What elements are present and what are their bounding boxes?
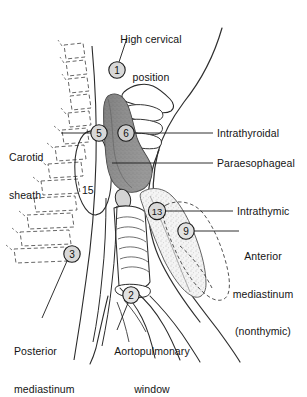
label-anterior-mediastinum-line1: Anterior [222, 250, 304, 263]
label-posterior-mediastinum-line2: mediastinum [14, 383, 92, 396]
marker-13[interactable]: 13 [148, 202, 165, 219]
marker-13-number: 13 [152, 206, 162, 217]
label-carotid-sheath-line2: sheath [9, 189, 64, 202]
leader-posterior-mediastinum [42, 261, 67, 318]
marker-2[interactable]: 2 [123, 287, 139, 303]
marker-6[interactable]: 6 [118, 125, 134, 141]
marker-3-number: 3 [69, 249, 75, 260]
marker-2-number: 2 [128, 290, 134, 301]
label-intrathymic: Intrathymic [237, 205, 307, 218]
label-aortopulmonary-window-line1: Aortopulmonary [104, 345, 200, 358]
label-anterior-mediastinum-line2: mediastinum [222, 288, 304, 301]
label-carotid-sheath-line1: Carotid [9, 151, 64, 164]
label-intrathyroidal: Intrathyroidal [217, 127, 303, 140]
label-high-cervical-position: High cervical position [96, 8, 206, 108]
label-aortopulmonary-window-line2: window [104, 383, 200, 396]
marker-9[interactable]: 9 [178, 223, 194, 239]
vertebral-anterior-border [74, 46, 96, 360]
marker-5[interactable]: 5 [91, 125, 107, 141]
number-15: 15 [82, 184, 94, 196]
marker-5-number: 5 [96, 128, 102, 139]
label-high-cervical-line1: High cervical [96, 33, 206, 46]
trachea [114, 206, 150, 290]
label-paraesophageal: Paraesophageal [217, 157, 307, 170]
label-carotid-sheath: Carotid sheath [9, 126, 64, 226]
marker-9-number: 9 [183, 226, 189, 237]
label-aortopulmonary-window: Aortopulmonary window [104, 320, 200, 397]
marker-6-number: 6 [123, 128, 129, 139]
label-high-cervical-line2: position [96, 71, 206, 84]
label-anterior-mediastinum-line3: (nonthymic) [222, 325, 304, 338]
label-posterior-mediastinum: Posterior mediastinum [14, 320, 92, 397]
label-anterior-mediastinum: Anterior mediastinum (nonthymic) [222, 225, 304, 363]
marker-3[interactable]: 3 [64, 246, 80, 262]
label-posterior-mediastinum-line1: Posterior [14, 345, 92, 358]
